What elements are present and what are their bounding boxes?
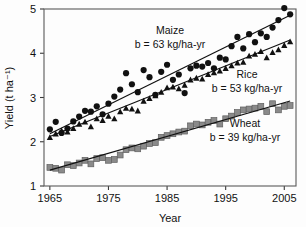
data-point (106, 157, 112, 163)
data-point (170, 77, 176, 83)
annotation-crop-name: Maize (156, 24, 184, 36)
annotation-crop-name: Rice (236, 68, 257, 80)
data-point (111, 94, 117, 100)
data-point (111, 157, 117, 163)
data-point (117, 152, 123, 158)
data-point (94, 103, 100, 109)
data-point (123, 70, 129, 76)
data-point (176, 71, 182, 77)
data-point (193, 121, 199, 127)
data-point (47, 126, 53, 132)
data-point (223, 56, 229, 62)
annotation-slope: b = 53 kg/ha-yr (212, 82, 283, 94)
data-point (234, 34, 240, 40)
data-point (164, 62, 170, 68)
data-point (188, 123, 194, 129)
data-point (281, 5, 287, 11)
y-tick-label: 5 (30, 3, 36, 15)
data-point (82, 108, 88, 114)
data-point (246, 106, 252, 112)
data-point (135, 146, 141, 152)
data-point (187, 65, 193, 71)
data-point (264, 34, 270, 40)
data-point (59, 167, 65, 173)
data-point (158, 69, 164, 75)
x-tick-label: 2005 (272, 192, 296, 204)
chart-canvas: 12345 19651975198519952005 Maizeb = 63 k… (0, 0, 306, 227)
data-point (240, 107, 246, 113)
x-tick-label: 1985 (155, 192, 179, 204)
data-point (276, 107, 282, 113)
y-tick-label: 4 (30, 47, 36, 59)
y-tick-label: 1 (30, 180, 36, 192)
data-point (53, 119, 59, 125)
data-point (264, 109, 270, 115)
data-point (240, 45, 246, 51)
y-tick-label: 3 (30, 92, 36, 104)
x-tick-label: 1975 (96, 192, 120, 204)
data-point (199, 63, 205, 69)
data-point (193, 63, 199, 69)
y-tick-label: 2 (30, 136, 36, 148)
data-point (129, 81, 135, 87)
annotation-slope: b = 39 kg/ha-yr (210, 131, 281, 143)
annotation-slope: b = 63 kg/ha-yr (135, 38, 206, 50)
data-point (217, 55, 223, 61)
data-point (146, 74, 152, 80)
data-point (287, 103, 293, 109)
x-tick-label: 1965 (38, 192, 62, 204)
data-point (182, 90, 188, 96)
x-axis-title: Year (159, 212, 182, 224)
annotation-crop-name: Wheat (230, 117, 260, 129)
x-tick-label: 1995 (213, 192, 237, 204)
data-point (281, 103, 287, 109)
data-point (88, 161, 94, 167)
y-axis-title: Yield (t ha⁻¹) (3, 67, 15, 129)
data-point (117, 86, 123, 92)
yield-trend-chart: 12345 19651975198519952005 Maizeb = 63 k… (0, 0, 306, 227)
data-point (205, 60, 211, 66)
data-point (234, 110, 240, 116)
data-point (141, 67, 147, 73)
data-point (252, 39, 258, 45)
